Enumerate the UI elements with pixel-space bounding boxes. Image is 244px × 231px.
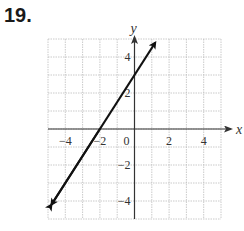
y-tick-label: −2 xyxy=(118,158,131,172)
y-tick-label: 4 xyxy=(125,50,131,64)
y-axis-label: y xyxy=(129,21,138,36)
y-tick-label: −4 xyxy=(118,194,131,208)
x-axis-label: x xyxy=(235,122,243,137)
x-tick-label: 4 xyxy=(201,134,207,148)
x-tick-label: 2 xyxy=(166,134,172,148)
coordinate-plane: xy−4−2024−4−224 xyxy=(0,0,244,231)
x-tick-label: −4 xyxy=(59,134,72,148)
x-tick-label: 0 xyxy=(124,134,130,148)
